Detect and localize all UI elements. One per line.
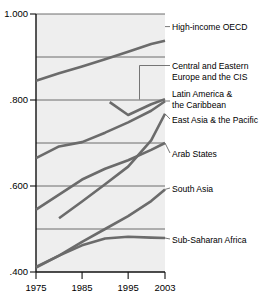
y-tick-label-0: 1.000 — [4, 8, 28, 19]
x-tick-label-3: 2003 — [154, 282, 175, 293]
x-axis-ticks-group — [36, 272, 165, 279]
y-axis-ticks-group — [30, 14, 36, 272]
label-arab-states: Arab States — [172, 149, 217, 159]
label-latin-america-line1: Latin America & — [172, 89, 232, 99]
label-sub-saharan-africa: Sub-Saharan Africa — [172, 235, 247, 245]
leader-sub-saharan-africa — [165, 238, 170, 239]
x-tick-label-2: 1995 — [118, 282, 139, 293]
label-east-asia-pacific: East Asia & the Pacific — [172, 115, 259, 125]
label-high-income-oecd: High-income OECD — [172, 22, 247, 32]
label-central-eastern-europe-line1: Central and Eastern — [172, 61, 249, 71]
chart-container: 1.000.800.600.400 1975198519952003 High-… — [0, 0, 262, 299]
leader-south-asia — [165, 188, 170, 189]
y-tick-label-1: .800 — [10, 94, 29, 105]
x-tick-label-0: 1975 — [25, 282, 46, 293]
y-axis-tick-labels: 1.000.800.600.400 — [4, 8, 28, 277]
y-tick-label-3: .400 — [10, 266, 29, 277]
label-latin-america-line2: the Caribbean — [172, 100, 226, 110]
y-tick-label-2: .600 — [10, 180, 29, 191]
label-south-asia: South Asia — [172, 184, 213, 194]
x-tick-label-1: 1985 — [72, 282, 93, 293]
label-central-eastern-europe-line2: Europe and the CIS — [172, 72, 248, 82]
x-axis-tick-labels: 1975198519952003 — [25, 282, 175, 293]
leader-arab-states — [165, 143, 170, 153]
series-labels-group: High-income OECDCentral and EasternEurop… — [172, 22, 259, 245]
line-chart: 1.000.800.600.400 1975198519952003 High-… — [0, 0, 262, 299]
